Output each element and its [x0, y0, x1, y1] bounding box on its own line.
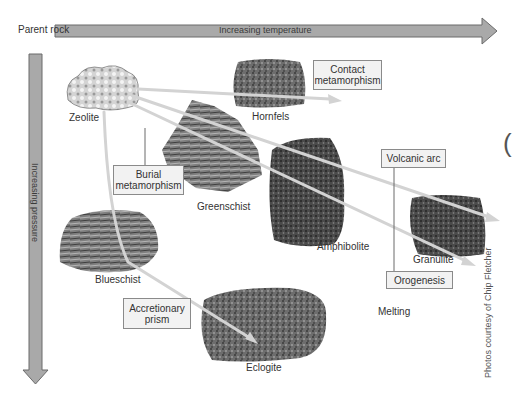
rock-label-amphibolite: Amphibolite: [317, 241, 369, 252]
rock-label-greenschist: Greenschist: [197, 201, 250, 212]
rock-label-zeolite: Zeolite: [69, 112, 99, 123]
setting-box-burial-metamorphism: Burial metamorphism: [113, 165, 184, 195]
setting-label-line1: Volcanic arc: [382, 153, 445, 164]
pressure-axis-label: Increasing pressure: [30, 163, 40, 242]
rock-label-hornfels: Hornfels: [252, 111, 289, 122]
setting-box-accretionary-prism: Accretionary prism: [123, 298, 191, 329]
setting-label-line2: metamorphism: [114, 180, 183, 191]
edge-parenthesis-glyph: (: [503, 128, 512, 159]
hornfels-rock: [233, 59, 305, 108]
temperature-axis-label: Increasing temperature: [219, 25, 312, 35]
setting-label-line1: Burial: [114, 169, 183, 180]
diagram-graphics: [0, 0, 513, 411]
setting-label-line1: Contact: [314, 64, 381, 75]
parent-rock-label: Parent rock: [18, 25, 54, 35]
rock-label-eclogite: Eclogite: [246, 362, 282, 373]
rock-label-granulite: Granulite: [413, 254, 454, 265]
photo-credit: Photos courtesy of Chip Fletcher: [483, 247, 493, 378]
setting-label-line1: Orogenesis: [387, 275, 452, 286]
setting-label-line2: metamorphism: [314, 75, 381, 86]
melting-label: Melting: [378, 306, 410, 317]
setting-label-line1: Accretionary: [124, 303, 190, 314]
setting-label-line2: prism: [124, 314, 190, 325]
setting-box-contact-metamorphism: Contact metamorphism: [313, 60, 382, 90]
eclogite-rock: [201, 288, 326, 362]
setting-box-orogenesis: Orogenesis: [386, 271, 453, 289]
rock-label-blueschist: Blueschist: [95, 274, 141, 285]
blueschist-rock: [60, 210, 158, 272]
setting-box-volcanic-arc: Volcanic arc: [381, 149, 446, 168]
